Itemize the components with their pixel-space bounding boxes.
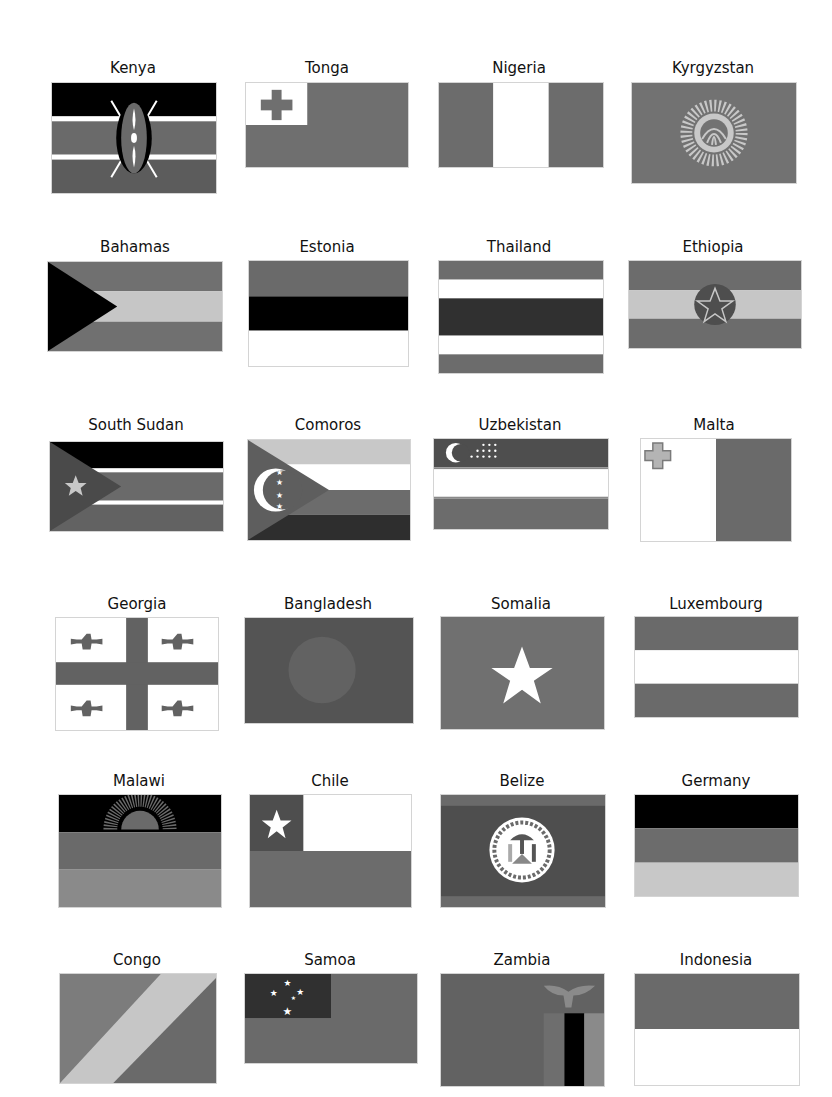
flag-label-belize: Belize xyxy=(500,772,545,790)
flag-kenya xyxy=(51,82,217,194)
flag-georgia xyxy=(55,617,219,731)
flag-congo xyxy=(59,973,217,1084)
flag-belize xyxy=(440,794,606,908)
flag-luxembourg xyxy=(634,616,799,718)
flag-label-nigeria: Nigeria xyxy=(492,59,546,77)
flag-label-kenya: Kenya xyxy=(110,59,156,77)
flag-label-malawi: Malawi xyxy=(113,772,165,790)
flag-samoa: ★ ★ ★ ★ ★ xyxy=(244,973,418,1064)
flag-tonga xyxy=(245,82,409,168)
flag-label-luxembourg: Luxembourg xyxy=(669,595,763,613)
svg-text:★: ★ xyxy=(291,995,296,1001)
svg-text:★: ★ xyxy=(270,988,278,998)
svg-text:★: ★ xyxy=(276,478,283,487)
flag-label-chile: Chile xyxy=(311,772,349,790)
flag-chile xyxy=(249,794,412,908)
flag-indonesia xyxy=(634,973,800,1086)
flag-label-indonesia: Indonesia xyxy=(680,951,753,969)
flag-malawi xyxy=(58,794,222,908)
svg-text:★: ★ xyxy=(276,491,283,500)
flag-label-tonga: Tonga xyxy=(305,59,349,77)
flag-label-malta: Malta xyxy=(693,416,734,434)
flag-thailand xyxy=(438,260,604,374)
flag-label-zambia: Zambia xyxy=(494,951,551,969)
flag-malta xyxy=(640,438,792,542)
flag-label-uzbekistan: Uzbekistan xyxy=(479,416,562,434)
flag-bangladesh xyxy=(244,617,414,724)
flag-somalia xyxy=(440,616,605,730)
flag-label-georgia: Georgia xyxy=(108,595,167,613)
flag-bahamas xyxy=(47,261,223,352)
flag-label-germany: Germany xyxy=(682,772,751,790)
flag-comoros: ★★★★ xyxy=(247,439,411,541)
flag-label-congo: Congo xyxy=(113,951,161,969)
svg-text:★: ★ xyxy=(284,978,292,988)
flag-uzbekistan xyxy=(433,438,609,530)
flag-zambia xyxy=(440,973,605,1087)
flag-south-sudan xyxy=(49,441,224,532)
svg-text:★: ★ xyxy=(296,987,304,997)
flag-label-samoa: Samoa xyxy=(304,951,356,969)
flag-label-estonia: Estonia xyxy=(299,238,354,256)
flag-label-comoros: Comoros xyxy=(295,416,361,434)
flag-label-south-sudan: South Sudan xyxy=(88,416,184,434)
flag-label-thailand: Thailand xyxy=(487,238,551,256)
flag-label-kyrgyzstan: Kyrgyzstan xyxy=(672,59,754,77)
flag-label-bahamas: Bahamas xyxy=(100,238,170,256)
flag-nigeria xyxy=(438,82,604,168)
svg-text:★: ★ xyxy=(276,502,283,511)
flag-label-bangladesh: Bangladesh xyxy=(284,595,372,613)
svg-text:★: ★ xyxy=(276,468,283,477)
flag-kyrgyzstan xyxy=(631,82,797,184)
flag-estonia xyxy=(248,260,409,367)
svg-text:★: ★ xyxy=(283,1005,293,1018)
flag-germany xyxy=(634,794,799,897)
flag-ethiopia xyxy=(628,260,802,349)
flag-label-somalia: Somalia xyxy=(491,595,551,613)
flag-label-ethiopia: Ethiopia xyxy=(682,238,743,256)
